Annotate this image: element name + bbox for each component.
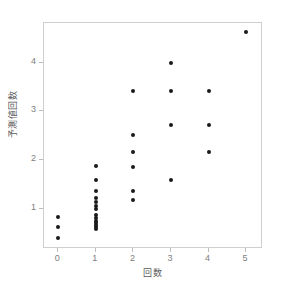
x-axis-tick-label: 4 bbox=[198, 253, 218, 264]
data-point bbox=[131, 150, 135, 154]
data-point bbox=[94, 227, 98, 231]
data-point bbox=[131, 89, 135, 93]
data-point bbox=[169, 89, 173, 93]
data-point bbox=[169, 61, 173, 65]
x-axis-tick bbox=[170, 248, 171, 252]
y-axis-tick bbox=[39, 208, 43, 209]
data-point bbox=[169, 178, 173, 182]
data-point bbox=[244, 30, 248, 34]
plot-data-area bbox=[44, 23, 261, 247]
data-point bbox=[131, 165, 135, 169]
scatter-plot-figure: 回数 予測値回数 0123451234 bbox=[0, 0, 281, 291]
y-axis-tick bbox=[39, 110, 43, 111]
y-axis-tick-label: 2 bbox=[22, 153, 36, 164]
y-axis-title: 予測値回数 bbox=[6, 65, 19, 165]
x-axis-tick-label: 1 bbox=[85, 253, 105, 264]
x-axis-tick bbox=[57, 248, 58, 252]
data-point bbox=[169, 123, 173, 127]
x-axis-tick bbox=[132, 248, 133, 252]
x-axis-title: 回数 bbox=[43, 266, 262, 279]
y-axis-tick-label: 4 bbox=[22, 56, 36, 67]
x-axis-tick bbox=[245, 248, 246, 252]
y-axis-tick bbox=[39, 62, 43, 63]
data-point bbox=[94, 189, 98, 193]
y-axis-tick-label: 3 bbox=[22, 104, 36, 115]
y-axis-tick-label: 1 bbox=[22, 202, 36, 213]
data-point bbox=[56, 236, 60, 240]
data-point bbox=[94, 207, 98, 211]
data-point bbox=[56, 225, 60, 229]
data-point bbox=[94, 178, 98, 182]
x-axis-tick-label: 5 bbox=[235, 253, 255, 264]
data-point bbox=[56, 215, 60, 219]
x-axis-tick-label: 0 bbox=[47, 253, 67, 264]
data-point bbox=[131, 198, 135, 202]
x-axis-tick bbox=[208, 248, 209, 252]
plot-frame bbox=[43, 22, 262, 248]
data-point bbox=[207, 89, 211, 93]
x-axis-tick-label: 3 bbox=[160, 253, 180, 264]
y-axis-tick bbox=[39, 159, 43, 160]
data-point bbox=[207, 150, 211, 154]
x-axis-tick-label: 2 bbox=[122, 253, 142, 264]
data-point bbox=[94, 164, 98, 168]
data-point bbox=[131, 189, 135, 193]
x-axis-tick bbox=[95, 248, 96, 252]
data-point bbox=[207, 123, 211, 127]
data-point bbox=[131, 133, 135, 137]
